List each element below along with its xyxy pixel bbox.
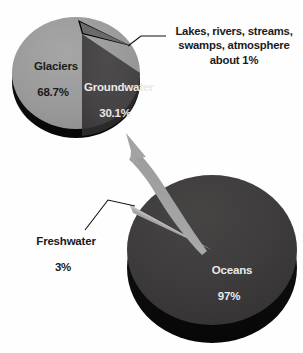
oceans-percent: 97% xyxy=(198,290,260,303)
top-pie-groundwater-label: Groundwater 30.1% xyxy=(78,68,152,132)
bottom-pie-freshwater-label: Freshwater 3% xyxy=(20,222,106,286)
lakes-rivers-leader-line xyxy=(128,36,166,46)
glaciers-percent: 68.7% xyxy=(22,86,84,99)
freshwater-percent: 3% xyxy=(20,261,106,274)
groundwater-name: Groundwater xyxy=(84,81,153,93)
freshwater-name: Freshwater xyxy=(36,235,95,247)
glaciers-name: Glaciers xyxy=(34,60,78,72)
top-pie-glaciers-label: Glaciers 68.7% xyxy=(22,47,84,111)
oceans-name: Oceans xyxy=(212,264,252,276)
lakes-rivers-callout-label: Lakes, rivers, streams, swamps, atmosphe… xyxy=(165,24,303,67)
bottom-pie-oceans-label: Oceans 97% xyxy=(198,251,260,315)
groundwater-percent: 30.1% xyxy=(78,107,152,120)
